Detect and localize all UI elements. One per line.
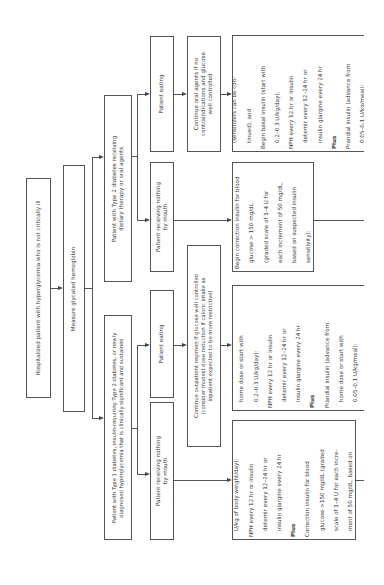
text-line: (sensitizers can be con- <box>232 39 238 149</box>
text-line: tinued), and <box>245 39 252 149</box>
plus-label: Plus <box>309 288 316 408</box>
continue-oral-text: Continue oral agents if no contraindicat… <box>193 38 214 150</box>
text-line: 0.2–0.3 U/kg/day): <box>252 288 259 408</box>
type1-eating-insulin-box: If glucose poorly controlled, begin basa… <box>232 285 364 411</box>
type2-npo-text: Patient receiving nothing by mouth <box>155 164 169 270</box>
connector-type1-vertical <box>137 345 138 475</box>
text-line: insulin glargine every 24 hr <box>276 423 283 537</box>
text-line: Correction insulin for blood <box>305 423 312 537</box>
text-line: sensitivity): <box>305 165 312 269</box>
text-line: U/kg of body weight/day): <box>234 423 241 537</box>
connector-split-vertical <box>92 157 93 419</box>
text-line: insulin glargine every 24 hr <box>316 39 323 149</box>
type2-eating-text: Patient eating <box>158 38 165 150</box>
text-line: based on suspected insulin <box>291 165 298 269</box>
connector-type2-vertical <box>137 94 138 221</box>
type2-npo-box: Patient receiving nothing by mouth <box>150 162 174 272</box>
plus-label: Plus <box>330 39 337 149</box>
type2-eating-box: Patient eating <box>150 36 174 152</box>
start-text: Hospitalized patient with hyperglycemia … <box>35 181 42 395</box>
text-line: detemir every 12–24 hr or <box>262 423 269 537</box>
text-line: home dose or start with <box>338 288 345 408</box>
text-line: 0.2–0.3 U/kg/day): <box>274 39 281 149</box>
type1-eating-insulin-text: If glucose poorly controlled, begin basa… <box>232 288 364 408</box>
type1-eating-box: Patient eating <box>150 290 174 398</box>
connector-t1npo-step1 <box>174 480 228 481</box>
connector-t1npo-out <box>356 480 364 481</box>
text-line: 0.05–0.1 U/kg/meal): <box>359 39 364 149</box>
text-line: ment of 50 mg/dL, based on <box>347 423 354 537</box>
text-line: Begin basal insulin (start with <box>259 39 266 149</box>
measure-box: Measure glycated hemoglobin <box>63 165 85 412</box>
type2-npo-insulin-box: Discontinue oral agents Begin correction… <box>232 162 314 272</box>
plus-label: Plus <box>290 423 297 537</box>
connector-t2npo-step1 <box>174 220 228 221</box>
type1-npo-box: Patient receiving nothing by mouth <box>150 402 174 540</box>
type2-npo-insulin-text: Discontinue oral agents Begin correction… <box>232 165 314 269</box>
continue-outpatient-box: Continue outpatient regimen if glucose w… <box>187 245 221 447</box>
text-line: NPH every 12 hr or insulin <box>248 423 255 537</box>
text-line: Begin correction insulin for blood <box>234 165 241 269</box>
type2-text: Patient with Type 2 diabetes receiving d… <box>111 98 125 280</box>
connector-t2npo-out <box>314 220 364 221</box>
text-line: detemir every 12–24 hr or <box>281 288 288 408</box>
measure-text: Measure glycated hemoglobin <box>70 169 77 409</box>
type1-box: Patient with Type 1 diabetes, insulin-re… <box>104 315 132 540</box>
text-line: scale of 1–4 U for each incre- <box>333 423 340 537</box>
text-line: Prandial insulin (advance from <box>345 39 352 149</box>
text-line: Prandial insulin (advance from <box>323 288 330 408</box>
start-box: Hospitalized patient with hyperglycemia … <box>26 178 51 398</box>
text-line: insulin glargine every 24 hr <box>295 288 302 408</box>
type2-eating-insulin-text: If glucose poorly controlled, discontinu… <box>232 39 364 149</box>
text-line: NPH every 12 hr or insulin <box>288 39 295 149</box>
type2-eating-insulin-box: If glucose poorly controlled, discontinu… <box>232 35 364 152</box>
text-line: detemir every 12–24 hr or <box>302 39 309 149</box>
type1-npo-insulin-box: Basal insulin dose (use home dose or sta… <box>232 420 356 540</box>
text-line: glucose >150 mg/dL (graded <box>319 423 326 537</box>
type1-npo-text: Patient receiving nothing by mouth <box>155 404 169 538</box>
text-line: NPH every 12 hr or insulin <box>267 288 274 408</box>
text-line: (graded scale of 1–4 U for <box>262 165 269 269</box>
text-line: 0.05–0.1 U/kg/meal): <box>352 288 359 408</box>
type2-box: Patient with Type 2 diabetes receiving d… <box>104 95 132 282</box>
type1-eating-text: Patient eating <box>158 292 165 396</box>
text-line: each increment of 50 mg/dL, <box>277 165 284 269</box>
type1-text: Patient with Type 1 diabetes, insulin-re… <box>111 317 125 539</box>
text-line: home dose or start with <box>238 288 245 408</box>
text-line: glucose > 150 mg/dL <box>248 165 255 269</box>
continue-outpatient-text: Continue outpatient regimen if glucose w… <box>193 247 214 445</box>
continue-oral-box: Continue oral agents if no contraindicat… <box>187 36 221 152</box>
type1-npo-insulin-text: Basal insulin dose (use home dose or sta… <box>232 423 356 537</box>
connector-measure-split <box>85 288 92 289</box>
